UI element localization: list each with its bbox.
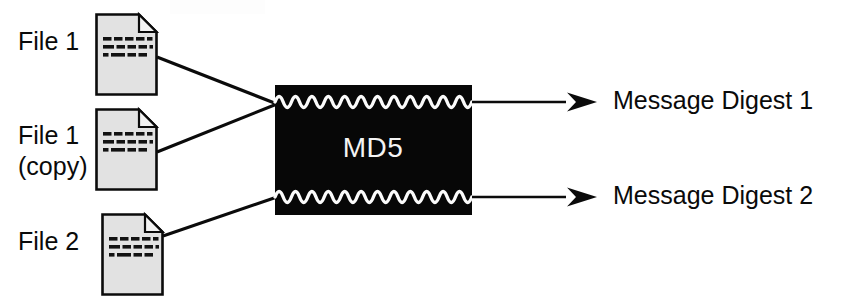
file-1-copy-label-line2: (copy) xyxy=(18,152,87,180)
md5-label: MD5 xyxy=(343,132,404,163)
file-1-copy-label-line1: File 1 xyxy=(18,121,79,149)
connector-file-1 xyxy=(157,57,277,104)
output-arrow-2 xyxy=(472,188,597,207)
file-1-label: File 1 xyxy=(18,27,79,55)
file-2-label: File 2 xyxy=(18,227,79,255)
md5-hash-diagram: MD5 File 1 File 1 (copy) File 2 Message … xyxy=(0,0,841,297)
file-1-icon xyxy=(97,15,157,95)
output-arrow-1 xyxy=(472,93,597,112)
diagram-canvas: MD5 File 1 File 1 (copy) File 2 Message … xyxy=(0,0,841,297)
connector-lines xyxy=(157,57,277,236)
connector-file-2 xyxy=(163,197,277,236)
message-digest-2-label: Message Digest 2 xyxy=(613,181,813,209)
connector-file-1-copy xyxy=(157,104,277,152)
file-2-icon xyxy=(103,215,163,295)
file-1-copy-icon xyxy=(97,110,157,190)
message-digest-1-label: Message Digest 1 xyxy=(613,86,813,114)
md5-processor: MD5 xyxy=(275,85,472,215)
